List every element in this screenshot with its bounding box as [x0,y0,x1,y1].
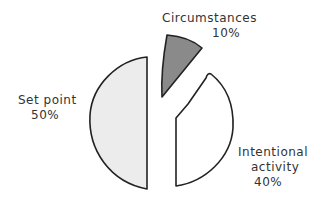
label-circumstances: Circumstances 10% [162,11,257,41]
label-circumstances-name: Circumstances [162,11,257,26]
slice-set-point [90,57,147,189]
label-set-point-pct: 50% [18,108,77,123]
label-set-point-name: Set point [18,93,77,108]
slice-circumstances [162,35,202,97]
slice-intentional-activity [176,74,233,186]
label-intentional-name1: Intentional [238,145,308,160]
label-intentional-pct: 40% [238,175,308,190]
label-circumstances-pct: 10% [162,26,257,41]
label-intentional-name2: activity [238,160,308,175]
label-intentional-activity: Intentional activity 40% [238,145,308,190]
label-set-point: Set point 50% [18,93,77,123]
